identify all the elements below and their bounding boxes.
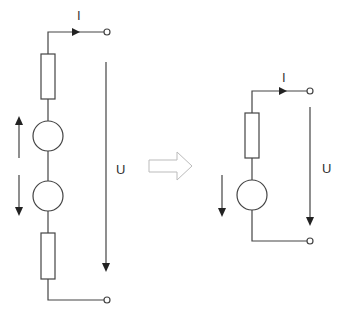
- circuit-diagram: I U I U: [0, 0, 340, 318]
- right-source: [237, 180, 267, 210]
- left-current-label: I: [77, 8, 81, 23]
- right-bottom-wire: [252, 210, 307, 241]
- right-voltage-label: U: [322, 161, 331, 176]
- right-resistor: [245, 113, 259, 158]
- transform-arrow-icon: [149, 152, 192, 180]
- right-current-arrowhead-icon: [279, 87, 287, 95]
- left-top-terminal: [104, 29, 110, 35]
- left-source-2: [33, 181, 63, 211]
- left-circuit: [15, 28, 110, 303]
- right-bottom-terminal: [307, 238, 313, 244]
- left-current-arrowhead-icon: [72, 28, 80, 36]
- right-top-terminal: [307, 88, 313, 94]
- left-bottom-wire: [48, 279, 104, 300]
- left-bottom-terminal: [104, 297, 110, 303]
- right-current-label: I: [282, 70, 286, 85]
- right-circuit: [218, 87, 314, 244]
- left-top-wire: [48, 32, 104, 54]
- left-resistor-top: [41, 54, 55, 99]
- left-resistor-bottom: [41, 233, 55, 279]
- left-voltage-label: U: [116, 162, 125, 177]
- left-source-1: [33, 121, 63, 151]
